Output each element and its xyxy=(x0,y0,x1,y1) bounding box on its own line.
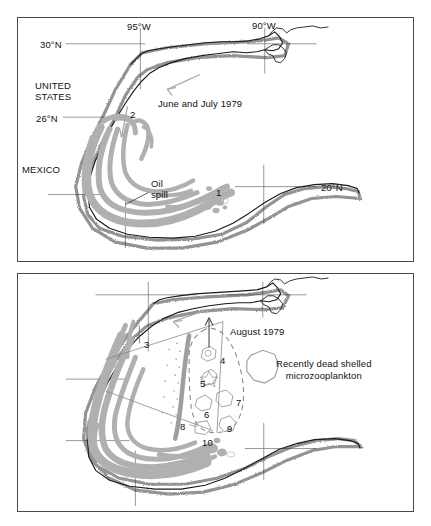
oil-patch-outline-small xyxy=(227,452,235,457)
country-label-united-states: UNITED STATES xyxy=(35,80,71,102)
station-marker-9: 9 xyxy=(227,424,232,434)
map-panel-august: August 1979 Recently dead shelled microz… xyxy=(17,273,414,512)
polygon-station-4 xyxy=(201,346,216,361)
map-graphic-august xyxy=(18,274,413,511)
current-arrow-north xyxy=(167,75,200,96)
station-marker-5: 5 xyxy=(200,379,205,389)
station-marker-6: 6 xyxy=(204,410,209,420)
period-label-june-july: June and July 1979 xyxy=(158,98,242,109)
figure-container: 95°W 90°W 30°N UNITED STATES 26°N MEXICO… xyxy=(0,0,431,526)
period-label-august: August 1979 xyxy=(230,326,284,337)
feature-label-oil-spill: Oil spill xyxy=(151,178,168,200)
latitude-label-20n: 20°N xyxy=(321,182,343,193)
legend-swatch-polygon xyxy=(247,350,279,383)
station-marker-3: 3 xyxy=(144,340,149,350)
station-polygons xyxy=(195,346,236,434)
oil-spill-plume xyxy=(92,322,215,475)
mortality-zone-boundary xyxy=(189,328,243,432)
legend-label-microzooplankton: Recently dead shelled microzooplankton xyxy=(276,358,372,381)
station-marker-7: 7 xyxy=(236,398,241,408)
polygon-station-8 xyxy=(195,421,211,435)
station-marker-1: 1 xyxy=(216,188,221,198)
station-marker-8: 8 xyxy=(180,422,185,432)
map-graphic-june-july xyxy=(18,18,413,261)
coastline-outline xyxy=(88,283,361,489)
station-marker-10: 10 xyxy=(202,438,213,448)
latitude-label-26n: 26°N xyxy=(36,113,58,124)
north-arrow xyxy=(205,318,213,348)
map-panel-june-july: 95°W 90°W 30°N UNITED STATES 26°N MEXICO… xyxy=(17,17,414,262)
country-label-mexico: MEXICO xyxy=(22,164,60,175)
latitude-label-30n: 30°N xyxy=(40,39,62,50)
station-8-leader xyxy=(189,425,197,427)
mississippi-delta xyxy=(265,45,287,63)
station-marker-4: 4 xyxy=(220,356,225,366)
longitude-label-90w: 90°W xyxy=(252,20,276,31)
longitude-label-95w: 95°W xyxy=(127,21,151,32)
station-marker-2: 2 xyxy=(130,110,135,120)
